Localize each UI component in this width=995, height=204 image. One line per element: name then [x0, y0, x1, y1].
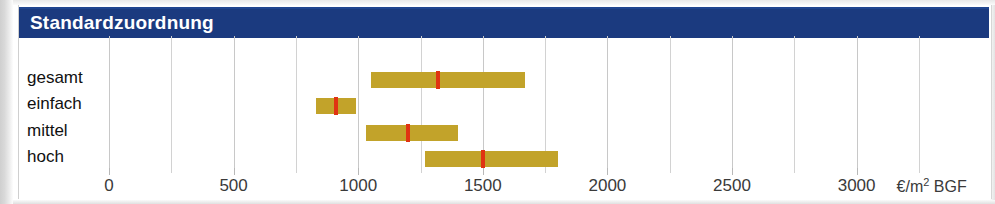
gridline-minor: [421, 36, 422, 173]
axis-tick-label: 2500: [713, 176, 751, 196]
title-banner: Standardzuordnung: [19, 7, 989, 38]
median-marker-mittel: [406, 124, 410, 142]
median-marker-einfach: [334, 97, 338, 115]
chart-figure: Standardzuordnung 0500100015002000250030…: [0, 0, 995, 204]
plot-area: 050010001500200025003000€/m2 BGFgesamtei…: [19, 36, 989, 199]
scan-edge-left: [0, 0, 13, 204]
scan-edge-bottom: [13, 200, 995, 204]
axis-tick-label: 1500: [464, 176, 502, 196]
page-title: Standardzuordnung: [30, 12, 214, 34]
gridline-major: [234, 36, 235, 173]
median-marker-hoch: [481, 150, 485, 168]
range-bar-gesamt: [371, 72, 526, 88]
chart-panel: Standardzuordnung 0500100015002000250030…: [18, 5, 992, 199]
axis-tick-mark: [732, 168, 733, 175]
axis-tick-mark: [109, 168, 110, 175]
gridline-major: [857, 36, 858, 173]
axis-tick-mark: [607, 168, 608, 175]
gridline-major: [109, 36, 110, 173]
gridline-minor: [794, 36, 795, 173]
axis-tick-label: 2000: [588, 176, 626, 196]
axis-tick-label: 1000: [339, 176, 377, 196]
gridline-minor: [296, 36, 297, 173]
gridline-major: [732, 36, 733, 173]
axis-unit-label: €/m2 BGF: [897, 176, 967, 196]
axis-tick-label: 0: [104, 176, 113, 196]
gridline-minor: [670, 36, 671, 173]
axis-tick-mark: [857, 168, 858, 175]
gridline-major: [358, 36, 359, 173]
gridline-minor: [171, 36, 172, 173]
axis-tick-mark: [358, 168, 359, 175]
row-label-mittel: mittel: [27, 121, 68, 141]
range-bar-mittel: [366, 125, 458, 141]
axis-tick-mark: [483, 168, 484, 175]
axis-tick-mark: [234, 168, 235, 175]
row-label-hoch: hoch: [27, 147, 64, 167]
gridline-major: [607, 36, 608, 173]
row-label-einfach: einfach: [27, 94, 82, 114]
axis-tick-label: 500: [219, 176, 247, 196]
median-marker-gesamt: [436, 71, 440, 89]
row-label-gesamt: gesamt: [27, 68, 83, 88]
range-bar-hoch: [425, 151, 557, 167]
axis-tick-label: 3000: [838, 176, 876, 196]
gridline-minor: [919, 36, 920, 173]
